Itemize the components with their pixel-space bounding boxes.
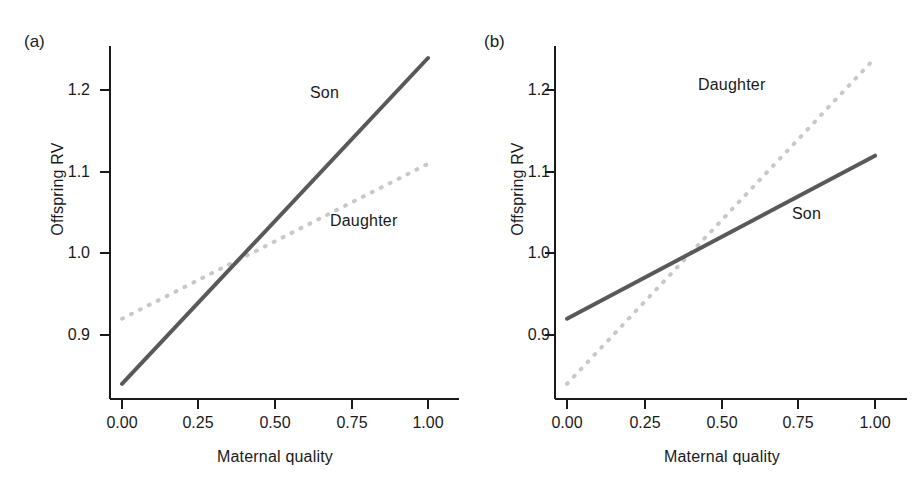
son-line xyxy=(567,156,875,319)
daughter-line xyxy=(122,164,428,319)
son-line xyxy=(122,58,428,384)
figure-container: (a) Offspring RV 1.2 1.1 1.0 0.9 0.00 0.… xyxy=(0,0,919,490)
daughter-line xyxy=(567,58,875,384)
chart-panel-a: (a) Offspring RV 1.2 1.1 1.0 0.9 0.00 0.… xyxy=(0,0,459,490)
chart-panel-b: (b) Offspring RV 1.2 1.1 1.0 0.9 0.00 0.… xyxy=(460,0,919,490)
panel-b-plot xyxy=(460,0,919,490)
panel-a-plot xyxy=(0,0,459,490)
